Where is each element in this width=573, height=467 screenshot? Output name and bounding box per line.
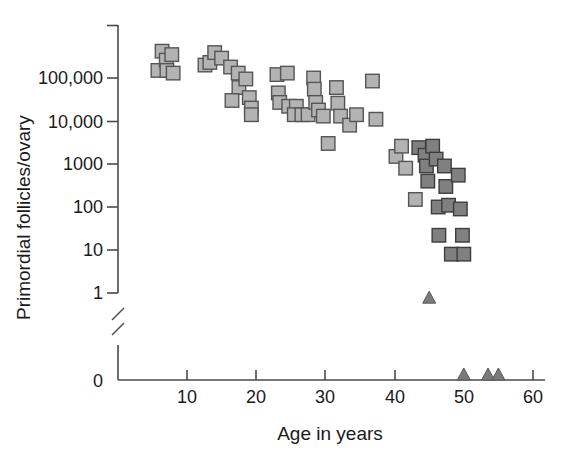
y-tick-label-0: 0 bbox=[93, 371, 103, 391]
y-tick-label-10: 10 bbox=[83, 240, 103, 260]
data-point-square bbox=[438, 159, 452, 173]
data-point-square bbox=[395, 139, 409, 153]
data-point-square bbox=[308, 82, 322, 96]
data-point-square bbox=[317, 109, 331, 123]
data-point-square bbox=[399, 161, 413, 175]
y-tick-label-100000: 100,000 bbox=[38, 68, 103, 88]
x-axis: 10 20 30 40 50 60 Age in years bbox=[118, 370, 545, 444]
data-point-triangle bbox=[492, 368, 505, 380]
data-point-square bbox=[439, 180, 453, 194]
data-point-triangle bbox=[457, 368, 470, 380]
data-point-square bbox=[369, 112, 383, 126]
x-tick-label-40: 40 bbox=[385, 387, 405, 407]
data-point-square bbox=[166, 66, 180, 80]
data-point-square bbox=[456, 229, 470, 243]
data-point-square bbox=[432, 229, 446, 243]
x-tick-label-30: 30 bbox=[315, 387, 335, 407]
y-tick-marks bbox=[107, 26, 118, 294]
y-tick-label-10000: 10,000 bbox=[48, 112, 103, 132]
chart-canvas: 100,000 10,000 1000 100 10 1 0 Primordia… bbox=[0, 0, 573, 467]
y-tick-label-100: 100 bbox=[73, 197, 103, 217]
data-point-square bbox=[321, 137, 335, 151]
axis-break-slash-2 bbox=[112, 323, 124, 335]
y-axis: 100,000 10,000 1000 100 10 1 0 Primordia… bbox=[13, 25, 124, 391]
data-point-square bbox=[225, 94, 239, 108]
x-tick-label-20: 20 bbox=[246, 387, 266, 407]
data-point-square bbox=[165, 48, 179, 62]
data-point-square bbox=[331, 96, 345, 110]
data-markers-group bbox=[151, 44, 505, 380]
data-point-square bbox=[366, 74, 380, 88]
data-point-square bbox=[245, 108, 258, 122]
data-point-square bbox=[409, 193, 423, 207]
data-point-square bbox=[281, 66, 295, 80]
data-point-square bbox=[457, 247, 471, 260]
data-point-triangle bbox=[423, 291, 436, 303]
x-tick-label-60: 60 bbox=[523, 387, 543, 407]
x-tick-label-50: 50 bbox=[454, 387, 474, 407]
data-point-square bbox=[426, 139, 440, 153]
data-point-square bbox=[239, 72, 253, 86]
data-point-square bbox=[350, 108, 364, 122]
axis-break-slash-1 bbox=[112, 308, 124, 320]
y-axis-title: Primordial follicles/ovary bbox=[13, 115, 34, 320]
data-point-square bbox=[330, 81, 344, 95]
data-point-square bbox=[452, 168, 466, 182]
scatter-plot-figure: 100,000 10,000 1000 100 10 1 0 Primordia… bbox=[0, 0, 573, 467]
data-point-square bbox=[454, 202, 468, 216]
data-point-square bbox=[421, 174, 435, 188]
y-tick-label-1000: 1000 bbox=[63, 154, 103, 174]
x-tick-marks bbox=[187, 370, 533, 380]
x-tick-label-10: 10 bbox=[177, 387, 197, 407]
y-tick-label-1: 1 bbox=[93, 283, 103, 303]
data-point-square bbox=[445, 247, 459, 260]
x-axis-title: Age in years bbox=[277, 423, 383, 444]
